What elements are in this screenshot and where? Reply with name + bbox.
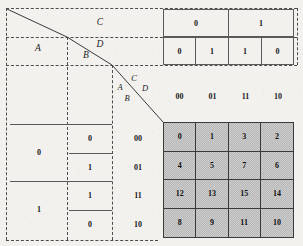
kmap-cell: 8 (164, 209, 196, 238)
frame-left-line (6, 8, 7, 240)
kmap-cell: 3 (229, 123, 261, 152)
left-table-a-rule (10, 181, 112, 182)
row-header-0: 00 (122, 135, 154, 143)
frame-lower-line (6, 65, 297, 66)
label-b-corner: B (121, 94, 133, 103)
truth-b-cell-3: 0 (73, 221, 107, 229)
label-c-corner: C (128, 74, 140, 83)
frame-right-line (297, 8, 298, 65)
truth-c-cell-1: 1 (229, 9, 294, 37)
frame-b-right-divider (112, 65, 113, 240)
kmap-cell: 13 (196, 180, 228, 209)
row-header-2: 11 (122, 192, 154, 200)
label-d-outer: D (92, 40, 108, 50)
truth-d-cell-1: 1 (196, 37, 229, 65)
figure-canvas: A B C D A B C D 0 1 0 1 1 0 00 01 11 10 … (0, 0, 303, 246)
truth-c-cell-0: 0 (163, 9, 229, 37)
kmap-cell: 5 (196, 152, 228, 181)
label-a-corner: A (114, 83, 126, 92)
label-b-outer: B (78, 51, 94, 61)
label-c-outer: C (92, 18, 108, 28)
truth-d-cell-2: 1 (229, 37, 262, 65)
column-header-3: 10 (262, 93, 294, 101)
kmap-cell: 9 (196, 209, 228, 238)
kmap-cell: 7 (229, 152, 261, 181)
left-table-b-rule-lower (69, 210, 112, 211)
truth-d-cell-0: 0 (163, 37, 196, 65)
label-a-outer: A (30, 44, 46, 54)
kmap-cell: 10 (261, 209, 293, 238)
row-header-3: 10 (122, 221, 154, 229)
kmap-cell: 4 (164, 152, 196, 181)
truth-a-cell-0: 0 (22, 149, 56, 157)
column-header-0: 00 (163, 93, 196, 101)
row-header-1: 01 (122, 164, 154, 172)
kmap-cell: 1 (196, 123, 228, 152)
truth-b-cell-0: 0 (73, 135, 107, 143)
truth-d-cell-3: 0 (262, 37, 294, 65)
column-header-2: 11 (229, 93, 262, 101)
kmap-cell: 11 (229, 209, 261, 238)
kmap-cell: 12 (164, 180, 196, 209)
frame-bottom-line (6, 240, 158, 241)
kmap-cell: 14 (261, 180, 293, 209)
truth-a-cell-1: 1 (22, 206, 56, 214)
column-header-1: 01 (196, 93, 229, 101)
left-table-top-rule (10, 124, 112, 125)
kmap-cell: 6 (261, 152, 293, 181)
kmap-cell: 2 (261, 123, 293, 152)
truth-b-cell-2: 1 (73, 192, 107, 200)
kmap-cell: 15 (229, 180, 261, 209)
frame-ab-divider (67, 37, 68, 240)
truth-b-cell-1: 1 (73, 164, 107, 172)
left-table-b-rule-upper (69, 153, 112, 154)
label-d-corner: D (139, 84, 151, 93)
kmap-cell: 0 (164, 123, 196, 152)
karnaugh-map-grid: 0 1 3 2 4 5 7 6 12 13 15 14 8 9 11 10 (163, 122, 294, 238)
